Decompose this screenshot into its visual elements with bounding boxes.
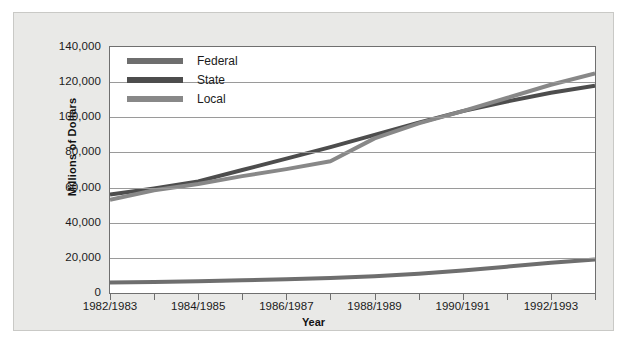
x-axis-tick bbox=[286, 293, 287, 300]
x-axis-tick bbox=[154, 293, 155, 300]
y-axis-tick-label: 20,000 bbox=[29, 251, 101, 263]
legend-item-state: State bbox=[127, 70, 317, 89]
gridline bbox=[110, 117, 595, 118]
legend-swatch-local bbox=[127, 96, 183, 102]
chart-card: Millions of Dollars 140,000120,000100,00… bbox=[13, 12, 614, 331]
legend-item-federal: Federal bbox=[127, 51, 317, 70]
gridline bbox=[110, 188, 595, 189]
x-axis-tick-label: 1988/1989 bbox=[330, 300, 420, 312]
y-axis-tick-label: 100,000 bbox=[29, 110, 101, 122]
legend-swatch-state bbox=[127, 77, 183, 83]
gridline bbox=[110, 258, 595, 259]
x-axis-tick bbox=[330, 293, 331, 300]
y-axis-tick-label: 60,000 bbox=[29, 181, 101, 193]
x-axis-title: Year bbox=[14, 316, 613, 328]
x-axis-tick bbox=[551, 293, 552, 300]
x-axis-tick-label: 1984/1985 bbox=[153, 300, 243, 312]
legend-swatch-federal bbox=[127, 58, 183, 64]
x-axis-tick-label: 1992/1993 bbox=[506, 300, 596, 312]
legend-label: State bbox=[197, 74, 225, 86]
x-axis-tick bbox=[419, 293, 420, 300]
x-axis-tick bbox=[242, 293, 243, 300]
x-axis-tick bbox=[507, 293, 508, 300]
x-axis-tick bbox=[463, 293, 464, 300]
x-axis-tick-label: 1986/1987 bbox=[241, 300, 331, 312]
series-line-federal bbox=[110, 260, 595, 283]
legend-label: Federal bbox=[197, 55, 238, 67]
gridline bbox=[110, 223, 595, 224]
x-axis-tick-label: 1982/1983 bbox=[65, 300, 155, 312]
legend-label: Local bbox=[197, 93, 226, 105]
chart-legend: FederalStateLocal bbox=[127, 51, 317, 108]
x-axis-tick-label: 1990/1991 bbox=[418, 300, 508, 312]
gridline bbox=[110, 152, 595, 153]
y-axis-tick-label: 120,000 bbox=[29, 75, 101, 87]
x-axis-tick bbox=[375, 293, 376, 300]
x-axis-tick bbox=[110, 293, 111, 300]
y-axis-tick-label: 140,000 bbox=[29, 40, 101, 52]
y-axis-tick-label: 80,000 bbox=[29, 145, 101, 157]
chart-figure: Millions of Dollars 140,000120,000100,00… bbox=[0, 0, 627, 343]
x-axis-tick bbox=[198, 293, 199, 300]
x-axis-tick bbox=[595, 293, 596, 300]
y-axis-tick-label: 40,000 bbox=[29, 216, 101, 228]
legend-item-local: Local bbox=[127, 89, 317, 108]
y-axis-tick-label: 0 bbox=[29, 286, 101, 298]
